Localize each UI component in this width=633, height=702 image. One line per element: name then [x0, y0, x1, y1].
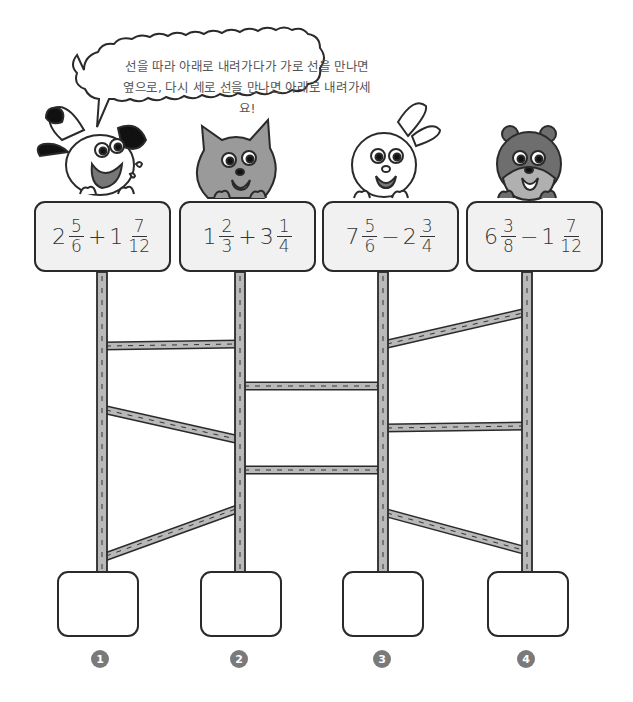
- fraction: 14: [277, 217, 292, 256]
- numerator: 5: [362, 217, 377, 237]
- whole-number: 1: [541, 224, 555, 249]
- mixed-fraction-expression: 1 23 + 3 14: [201, 217, 293, 256]
- fraction: 23: [219, 217, 234, 256]
- fraction: 56: [362, 217, 377, 256]
- operator: −: [381, 224, 399, 249]
- whole-number: 3: [260, 224, 274, 249]
- operator: −: [520, 224, 538, 249]
- operator: +: [88, 224, 106, 249]
- instruction-line-1: 선을 따라 아래로 내려가다가 가로 선을 만나면: [122, 56, 372, 77]
- instruction-text: 선을 따라 아래로 내려가다가 가로 선을 만나면 옆으로, 다시 세로 선을 …: [122, 56, 372, 119]
- whole-number: 1: [202, 224, 216, 249]
- answer-box-1[interactable]: [57, 571, 139, 637]
- numerator: 7: [564, 217, 579, 237]
- denominator: 12: [126, 237, 152, 256]
- numerator: 5: [69, 217, 84, 237]
- numerator: 3: [501, 217, 516, 237]
- whole-number: 6: [484, 224, 498, 249]
- problem-sign-3: 7 56 − 2 34: [322, 201, 459, 272]
- cat-character: [197, 120, 276, 198]
- fraction: 712: [126, 217, 152, 256]
- denominator: 4: [277, 237, 292, 256]
- whole-number: 1: [109, 224, 123, 249]
- denominator: 8: [501, 237, 516, 256]
- numerator: 7: [132, 217, 147, 237]
- instruction-line-2: 옆으로, 다시 세로 선을 만나면 아래로 내려가세요!: [122, 77, 372, 119]
- fraction: 56: [69, 217, 84, 256]
- dog-character: [38, 107, 146, 195]
- whole-number: 2: [52, 224, 66, 249]
- number-badge-1: 1: [91, 650, 109, 668]
- number-badge-3: 3: [373, 650, 391, 668]
- numerator: 3: [420, 217, 435, 237]
- problem-sign-4: 6 38 − 1 712: [466, 201, 603, 272]
- problem-sign-1: 2 56 + 1 712: [34, 201, 171, 272]
- fraction: 34: [420, 217, 435, 256]
- whole-number: 7: [345, 224, 359, 249]
- denominator: 12: [558, 237, 584, 256]
- answer-box-4[interactable]: [487, 571, 569, 637]
- number-badge-4: 4: [517, 650, 535, 668]
- operator: +: [238, 224, 256, 249]
- whole-number: 2: [403, 224, 417, 249]
- mixed-fraction-expression: 6 38 − 1 712: [483, 217, 586, 256]
- denominator: 6: [362, 237, 377, 256]
- ladder-rungs: [102, 312, 527, 558]
- denominator: 6: [69, 237, 84, 256]
- fraction: 38: [501, 217, 516, 256]
- number-badge-2: 2: [230, 650, 248, 668]
- answer-box-2[interactable]: [200, 571, 282, 637]
- answer-box-3[interactable]: [342, 571, 424, 637]
- denominator: 4: [420, 237, 435, 256]
- problem-sign-2: 1 23 + 3 14: [179, 201, 316, 272]
- mixed-fraction-expression: 7 56 − 2 34: [344, 217, 436, 256]
- fraction: 712: [558, 217, 584, 256]
- mixed-fraction-expression: 2 56 + 1 712: [51, 217, 154, 256]
- denominator: 3: [219, 237, 234, 256]
- numerator: 2: [219, 217, 234, 237]
- bear-character: [497, 126, 561, 200]
- numerator: 1: [277, 217, 292, 237]
